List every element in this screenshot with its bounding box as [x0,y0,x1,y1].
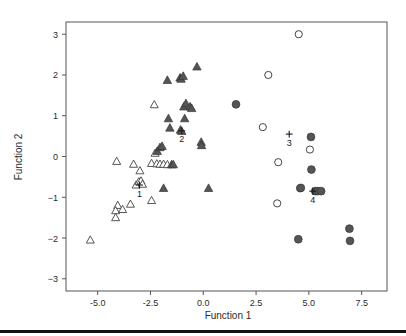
marker-filled-circle [307,166,315,174]
marker-filled-circle [297,184,305,192]
data-points [86,31,354,245]
marker-filled-circle [307,133,315,141]
scatter-plot-figure: -5.0-2.50.02.55.07.53210−1−2−3 1234 Func… [0,0,406,336]
plot-canvas: -5.0-2.50.02.55.07.53210−1−2−3 1234 Func… [0,0,406,336]
plot-frame [66,22,387,291]
marker-open-circle [274,200,281,207]
plot-border [66,22,387,291]
y-tick-label: −3 [48,274,58,284]
bottom-divider-rule [0,330,406,333]
marker-filled-triangle [180,114,188,122]
y-tick-label: −1 [48,193,58,203]
x-tick-label: 0.0 [197,298,210,308]
centroid-label: 1 [137,189,142,199]
marker-open-circle [275,159,282,166]
marker-open-triangle [130,160,138,167]
marker-open-triangle [126,200,134,207]
marker-open-triangle [112,213,120,220]
y-tick-label: 3 [53,30,58,40]
centroid-label: 2 [179,134,184,144]
marker-open-circle [306,146,313,153]
marker-open-circle [265,71,272,78]
x-tick-label: 7.5 [355,298,368,308]
marker-filled-triangle [204,184,212,192]
marker-filled-circle [346,237,354,245]
marker-open-triangle [113,157,121,164]
axis-ticks [62,34,362,295]
marker-filled-circle [232,100,240,108]
marker-filled-circle [317,187,325,195]
series-4 [232,100,354,244]
series-2 [153,62,213,191]
x-tick-label: -2.5 [143,298,159,308]
marker-open-circle [295,31,302,38]
marker-filled-triangle [166,124,174,132]
y-axis-title: Function 2 [13,133,24,180]
centroid-3: 3 [286,131,293,148]
series-3 [259,31,313,207]
axis-tick-labels: -5.0-2.50.02.55.07.53210−1−2−3 [48,30,368,308]
x-tick-label: 2.5 [250,298,263,308]
marker-open-triangle [148,196,156,203]
marker-filled-triangle [163,76,171,84]
y-tick-label: 2 [53,70,58,80]
x-tick-label: -5.0 [90,298,106,308]
y-tick-label: 0 [53,152,58,162]
y-tick-label: 1 [53,111,58,121]
marker-filled-circle [294,235,302,243]
marker-filled-triangle [164,114,172,122]
centroid-label: 3 [287,138,292,148]
series-1 [86,101,171,244]
x-axis-title: Function 1 [205,310,252,321]
marker-filled-triangle [159,184,167,192]
marker-open-circle [259,124,266,131]
marker-filled-triangle [193,62,201,70]
centroid-label: 4 [310,195,315,205]
marker-open-triangle [86,236,94,243]
y-tick-label: −2 [48,234,58,244]
marker-filled-circle [346,225,354,233]
x-tick-label: 5.0 [303,298,316,308]
marker-open-triangle [150,101,158,108]
